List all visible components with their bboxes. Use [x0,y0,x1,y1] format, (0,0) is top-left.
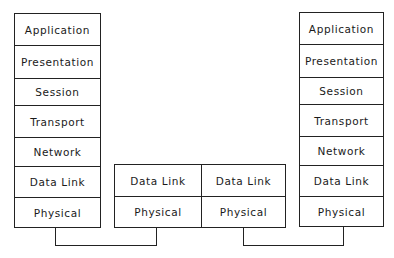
right-host-stack: Application Presentation Session Transpo… [299,12,384,227]
left-layer-data-link: Data Link [15,166,100,197]
left-connector-down [55,227,56,246]
left-layer-presentation: Presentation [15,45,100,78]
right-layer-application: Application [300,13,383,44]
right-connector-horizontal [243,245,344,246]
left-connector-up [156,227,157,246]
left-layer-physical: Physical [15,197,100,228]
right-layer-transport: Transport [300,104,383,136]
left-layer-session: Session [15,78,100,105]
intermediate-right-data-link: Data Link [202,165,285,196]
right-connector-up [343,226,344,246]
intermediate-left-data-link: Data Link [115,165,201,196]
right-layer-session: Session [300,77,383,104]
left-layer-application: Application [15,14,100,45]
right-layer-data-link: Data Link [300,165,383,196]
right-layer-physical: Physical [300,196,383,227]
left-layer-network: Network [15,137,100,166]
right-layer-network: Network [300,136,383,165]
left-layer-transport: Transport [15,105,100,137]
right-connector-down [243,227,244,246]
intermediate-left-physical: Physical [115,196,201,227]
left-host-stack: Application Presentation Session Transpo… [14,13,101,228]
intermediate-device: Data Link Physical Data Link Physical [114,164,286,228]
intermediate-right-physical: Physical [202,196,285,227]
left-connector-horizontal [55,245,157,246]
right-layer-presentation: Presentation [300,44,383,77]
